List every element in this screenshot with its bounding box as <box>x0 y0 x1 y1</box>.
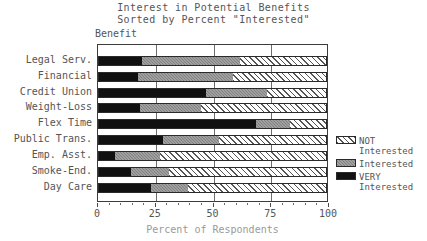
x-tick-minor-40 <box>189 203 190 205</box>
x-tick-major-50 <box>213 203 214 207</box>
bar-segment-interested <box>115 152 160 160</box>
bar-segment-interested <box>131 168 170 176</box>
bar-segment-not-interested <box>240 57 326 65</box>
bar-segment-very-interested <box>99 104 140 112</box>
y-axis-label: Flex Time <box>0 117 92 128</box>
legend-label: Interested <box>359 160 413 169</box>
y-axis-title: Benefit <box>95 28 137 39</box>
y-axis-label: Legal Serv. <box>0 54 92 65</box>
legend-swatch-not-interested <box>336 136 356 144</box>
bar-segment-not-interested <box>188 184 326 192</box>
stacked-bar <box>98 88 327 98</box>
table-row <box>98 181 327 195</box>
x-axis-tick-label: 0 <box>94 208 100 219</box>
table-row <box>98 165 327 179</box>
chart-subtitle: Sorted by Percent "Interested" <box>0 14 427 25</box>
chart-container: Interest in Potential Benefits Sorted by… <box>0 0 427 241</box>
x-tick-major-0 <box>97 203 98 207</box>
x-axis-title: Percent of Respondents <box>97 224 328 235</box>
legend: NOTInterestedInterestedVERYInterested <box>336 136 426 195</box>
x-tick-major-25 <box>155 203 156 207</box>
stacked-bar <box>98 167 327 177</box>
table-row <box>98 101 327 115</box>
legend-label-line2: Interested <box>336 146 426 156</box>
bar-segment-interested <box>140 104 201 112</box>
table-row <box>98 133 327 147</box>
bar-segment-interested <box>151 184 187 192</box>
stacked-bar <box>98 56 327 66</box>
plot-area <box>97 44 328 202</box>
stacked-bar <box>98 183 327 193</box>
bar-segment-interested <box>256 120 290 128</box>
bar-segment-very-interested <box>99 184 151 192</box>
bar-segment-not-interested <box>169 168 326 176</box>
bar-segment-very-interested <box>99 120 256 128</box>
x-tick-minor-95 <box>316 203 317 205</box>
stacked-bar <box>98 72 327 82</box>
bar-segment-not-interested <box>267 89 326 97</box>
x-axis-tick-label: 75 <box>264 208 276 219</box>
stacked-bar <box>98 103 327 113</box>
x-axis: 0255075100 <box>97 203 328 223</box>
x-tick-minor-30 <box>166 203 167 205</box>
x-tick-minor-65 <box>247 203 248 205</box>
x-tick-minor-85 <box>293 203 294 205</box>
chart-title-line1: Interest in Potential Benefits <box>0 2 427 13</box>
y-axis-label: Emp. Asst. <box>0 149 92 160</box>
table-row <box>98 54 327 68</box>
x-tick-minor-10 <box>120 203 121 205</box>
table-row <box>98 70 327 84</box>
y-axis-label: Financial <box>0 70 92 81</box>
legend-item-very-interested: VERYInterested <box>336 172 426 192</box>
legend-swatch-very-interested <box>336 172 356 180</box>
stacked-bar <box>98 151 327 161</box>
x-axis-tick-label: 100 <box>319 208 337 219</box>
x-tick-major-100 <box>328 203 329 207</box>
x-tick-minor-35 <box>178 203 179 205</box>
legend-item-interested: Interested <box>336 159 426 169</box>
bar-segment-interested <box>163 136 220 144</box>
x-tick-major-75 <box>270 203 271 207</box>
bar-segment-very-interested <box>99 89 206 97</box>
bar-segment-very-interested <box>99 73 138 81</box>
bar-segment-not-interested <box>233 73 326 81</box>
y-axis-label: Weight-Loss <box>0 101 92 112</box>
legend-swatch-interested <box>336 159 356 167</box>
y-axis-label: Day Care <box>0 181 92 192</box>
table-row <box>98 117 327 131</box>
x-tick-minor-90 <box>305 203 306 205</box>
x-tick-minor-20 <box>143 203 144 205</box>
y-axis-label: Public Trans. <box>0 133 92 144</box>
bar-segment-interested <box>142 57 240 65</box>
x-tick-minor-5 <box>109 203 110 205</box>
x-tick-minor-60 <box>236 203 237 205</box>
stacked-bar <box>98 135 327 145</box>
x-tick-minor-80 <box>282 203 283 205</box>
table-row <box>98 149 327 163</box>
bar-segment-not-interested <box>160 152 326 160</box>
bar-segment-not-interested <box>201 104 326 112</box>
x-axis-tick-label: 25 <box>149 208 161 219</box>
legend-label-line2: Interested <box>336 182 426 192</box>
x-axis-tick-label: 50 <box>206 208 218 219</box>
bar-segment-very-interested <box>99 168 131 176</box>
y-axis-label: Smoke-End. <box>0 165 92 176</box>
x-tick-minor-55 <box>224 203 225 205</box>
legend-label: NOT <box>359 137 375 146</box>
table-row <box>98 86 327 100</box>
x-tick-minor-45 <box>201 203 202 205</box>
stacked-bar <box>98 119 327 129</box>
bar-segment-very-interested <box>99 152 115 160</box>
bar-segment-interested <box>206 89 267 97</box>
x-tick-minor-70 <box>259 203 260 205</box>
bar-segment-very-interested <box>99 136 163 144</box>
bar-segment-not-interested <box>219 136 326 144</box>
bar-segment-very-interested <box>99 57 142 65</box>
legend-item-not-interested: NOTInterested <box>336 136 426 156</box>
bar-segment-not-interested <box>290 120 326 128</box>
y-axis-label: Credit Union <box>0 86 92 97</box>
x-tick-minor-15 <box>132 203 133 205</box>
bar-segment-interested <box>138 73 233 81</box>
legend-label: VERY <box>359 173 381 182</box>
